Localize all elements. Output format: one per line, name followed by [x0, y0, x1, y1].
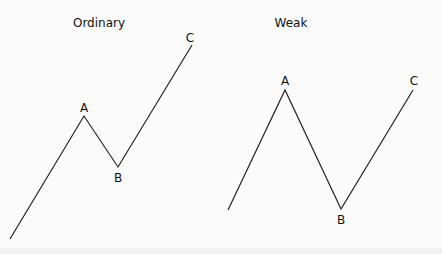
wave-comparison-diagram: Ordinary A B C Weak A B C: [0, 0, 442, 254]
ordinary-label-a: A: [80, 101, 89, 115]
ordinary-wave-line: [10, 45, 192, 239]
weak-wave-line: [228, 90, 413, 210]
ordinary-label-b: B: [114, 171, 122, 185]
bottom-edge-band: [0, 248, 442, 254]
diagram-svg: Ordinary A B C Weak A B C: [0, 0, 442, 254]
ordinary-label-c: C: [186, 31, 194, 45]
ordinary-title: Ordinary: [73, 16, 125, 30]
weak-label-a: A: [281, 74, 290, 88]
weak-label-c: C: [410, 74, 418, 88]
ordinary-pattern: Ordinary A B C: [10, 16, 194, 239]
weak-label-b: B: [337, 213, 345, 227]
weak-pattern: Weak A B C: [228, 16, 418, 227]
weak-title: Weak: [275, 16, 308, 30]
